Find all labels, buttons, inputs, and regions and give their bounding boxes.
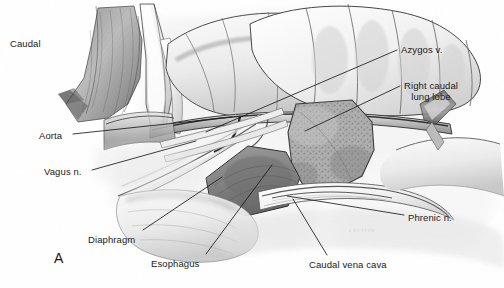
illustration-figure: CaudalAortaVagus n.Azygos v.Right caudal… (0, 0, 504, 288)
label-diaphragm: Diaphragm (88, 234, 135, 245)
artist-signature: cortiva (349, 226, 376, 234)
label-phrenic-nerve: Phrenic n. (408, 212, 452, 223)
label-right-caudal-lung-lobe: Right caudal lung lobe (404, 80, 458, 102)
label-caudal-vena-cava: Caudal vena cava (309, 259, 387, 270)
label-azygos-vein: Azygos v. (401, 44, 442, 55)
label-aorta: Aorta (39, 130, 62, 141)
panel-letter: A (54, 250, 63, 266)
label-esophagus: Esophagus (151, 258, 199, 269)
label-caudal: Caudal (10, 38, 41, 49)
label-vagus-nerve: Vagus n. (44, 166, 82, 177)
